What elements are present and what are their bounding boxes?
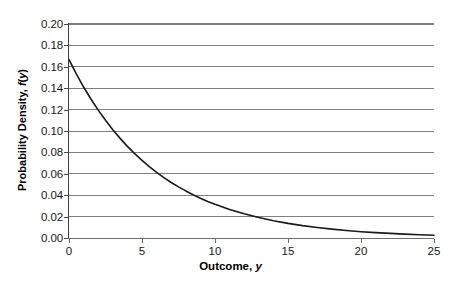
y-axis-line (68, 23, 69, 239)
y-tick-label: 0.10 (41, 125, 63, 137)
y-axis-variable: y (16, 73, 28, 79)
y-tick-label: 0.18 (41, 39, 63, 51)
x-tick-mark (361, 239, 362, 243)
y-tick-mark (64, 195, 68, 196)
x-tick-mark (69, 239, 70, 243)
y-tick-mark (64, 45, 68, 46)
x-axis-variable: y (255, 260, 261, 272)
x-axis-title: Outcome, y (0, 260, 461, 272)
x-axis-line (68, 238, 434, 239)
y-tick-mark (64, 24, 68, 25)
y-tick-label: 0.00 (41, 232, 63, 244)
y-tick-mark (64, 217, 68, 218)
x-tick-label: 25 (428, 245, 441, 257)
y-tick-label: 0.06 (41, 168, 63, 180)
y-tick-label: 0.04 (41, 189, 63, 201)
y-tick-mark (64, 88, 68, 89)
y-axis-tick-labels: 0.000.020.040.060.080.100.120.140.160.18… (0, 0, 63, 282)
y-axis-title: Probability Density, f(y) (16, 35, 28, 225)
y-tick-label: 0.08 (41, 146, 63, 158)
x-tick-label: 5 (139, 245, 145, 257)
x-tick-mark (215, 239, 216, 243)
probability-density-chart: 0.000.020.040.060.080.100.120.140.160.18… (0, 0, 461, 282)
y-tick-mark (64, 131, 68, 132)
x-tick-label: 15 (282, 245, 295, 257)
x-tick-label: 10 (209, 245, 222, 257)
y-tick-mark (64, 110, 68, 111)
plot-area (69, 24, 434, 238)
y-tick-label: 0.20 (41, 18, 63, 30)
x-tick-mark (288, 239, 289, 243)
x-axis-tick-labels: 0510152025 (0, 245, 461, 261)
x-tick-mark (142, 239, 143, 243)
series-line (69, 60, 434, 236)
x-tick-label: 20 (355, 245, 368, 257)
y-tick-mark (64, 238, 68, 239)
density-curve (69, 24, 434, 238)
y-tick-label: 0.14 (41, 82, 63, 94)
y-axis-function-symbol: f (16, 82, 28, 86)
y-tick-label: 0.16 (41, 61, 63, 73)
y-tick-mark (64, 152, 68, 153)
x-tick-mark (434, 239, 435, 243)
y-tick-label: 0.02 (41, 211, 63, 223)
x-tick-label: 0 (66, 245, 72, 257)
y-tick-mark (64, 67, 68, 68)
y-tick-mark (64, 174, 68, 175)
y-tick-label: 0.12 (41, 104, 63, 116)
